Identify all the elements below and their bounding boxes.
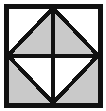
inscribed-diamond-figure	[0, 0, 106, 111]
figure-container	[0, 0, 106, 111]
